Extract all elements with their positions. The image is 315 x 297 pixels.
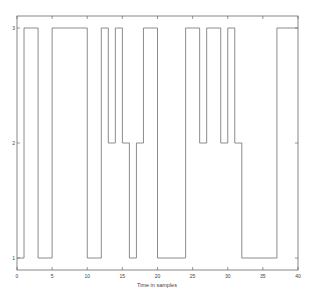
x-axis-title: Time in samples [137, 282, 177, 288]
step-chart: 0510152025303540 123 Time in samples [0, 0, 315, 297]
x-tick-label: 0 [16, 273, 19, 279]
x-tick-label: 5 [51, 273, 54, 279]
y-tick-label: 3 [12, 25, 15, 31]
step-series-line [17, 28, 298, 258]
y-axis-ticks: 123 [12, 25, 298, 261]
x-axis-ticks: 0510152025303540 [16, 16, 301, 279]
y-tick-label: 2 [12, 140, 15, 146]
x-tick-label: 35 [260, 273, 266, 279]
x-tick-label: 10 [84, 273, 90, 279]
y-tick-label: 1 [12, 255, 15, 261]
x-tick-label: 15 [120, 273, 126, 279]
x-tick-label: 40 [295, 273, 301, 279]
x-tick-label: 20 [155, 273, 161, 279]
x-tick-label: 30 [225, 273, 231, 279]
x-tick-label: 25 [190, 273, 196, 279]
